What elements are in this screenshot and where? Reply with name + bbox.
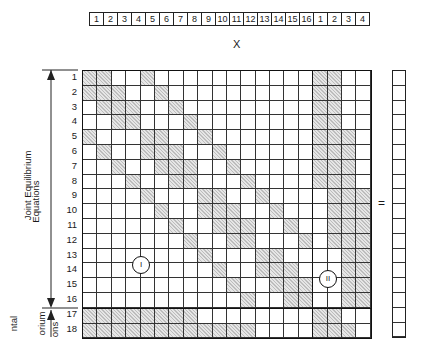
zero-cell (227, 130, 241, 145)
x-vector-cell: 16 (300, 13, 314, 25)
matrix-row (83, 204, 371, 219)
zero-cell (299, 130, 313, 145)
matrix-row (83, 175, 371, 190)
nonzero-cell (126, 101, 140, 116)
zero-cell (299, 263, 313, 278)
zero-cell (141, 175, 155, 190)
zero-cell (213, 101, 227, 116)
rhs-vector-cell (393, 189, 405, 204)
zero-cell (83, 160, 97, 175)
nonzero-cell (198, 204, 212, 219)
zero-cell (270, 293, 284, 308)
row-label: 12 (60, 233, 77, 248)
matrix-row (83, 293, 371, 308)
rhs-vector-cell (393, 234, 405, 249)
zero-cell (213, 278, 227, 293)
nonzero-cell (328, 130, 342, 145)
zero-cell (198, 219, 212, 234)
nonzero-cell (227, 204, 241, 219)
nonzero-cell (83, 71, 97, 86)
zero-cell (112, 204, 126, 219)
zero-cell (97, 234, 111, 249)
zero-cell (213, 71, 227, 86)
nonzero-cell (313, 175, 327, 190)
nonzero-cell (313, 160, 327, 175)
nonzero-cell (213, 189, 227, 204)
zero-cell (241, 249, 255, 264)
zero-cell (169, 130, 183, 145)
nonzero-cell (328, 204, 342, 219)
zero-cell (256, 130, 270, 145)
row-label: 15 (60, 277, 77, 292)
row-label: 11 (60, 218, 77, 233)
zero-cell (126, 130, 140, 145)
zero-cell (270, 175, 284, 190)
zero-cell (126, 204, 140, 219)
zero-cell (241, 115, 255, 130)
x-vector-label: X (233, 38, 240, 50)
nonzero-cell (97, 86, 111, 101)
row-label: 3 (60, 100, 77, 115)
zero-cell (256, 71, 270, 86)
zero-cell (155, 234, 169, 249)
nonzero-cell (356, 293, 370, 308)
rhs-vector-cell (393, 130, 405, 145)
rhs-vector-cell (393, 219, 405, 234)
rhs-vector-cell (393, 160, 405, 175)
zero-cell (227, 263, 241, 278)
zero-cell (169, 234, 183, 249)
nonzero-cell (328, 309, 342, 324)
rhs-vector-cell (393, 308, 405, 323)
nonzero-cell (299, 278, 313, 293)
zero-cell (299, 249, 313, 264)
nonzero-cell (227, 219, 241, 234)
zero-cell (227, 101, 241, 116)
zero-cell (83, 189, 97, 204)
zero-cell (141, 101, 155, 116)
zero-cell (241, 309, 255, 324)
zero-cell (284, 249, 298, 264)
zero-cell (126, 160, 140, 175)
zero-cell (270, 309, 284, 324)
matrix-row (83, 115, 371, 130)
x-vector-cell: 15 (286, 13, 300, 25)
lower-bracket-label-1: ntal (8, 309, 19, 339)
zero-cell (97, 263, 111, 278)
nonzero-cell (313, 309, 327, 324)
zero-cell (112, 145, 126, 160)
zero-cell (256, 86, 270, 101)
zero-cell (313, 249, 327, 264)
zero-cell (270, 219, 284, 234)
zero-cell (112, 234, 126, 249)
nonzero-cell (313, 86, 327, 101)
zero-cell (184, 293, 198, 308)
zero-cell (155, 293, 169, 308)
x-vector-cell: 2 (328, 13, 342, 25)
zero-cell (270, 189, 284, 204)
nonzero-cell (155, 204, 169, 219)
row-label: 6 (60, 144, 77, 159)
zero-cell (256, 115, 270, 130)
nonzero-cell (284, 278, 298, 293)
rhs-vector-cell (393, 145, 405, 160)
zero-cell (284, 115, 298, 130)
nonzero-cell (155, 130, 169, 145)
matrix-row (83, 86, 371, 101)
nonzero-cell (328, 115, 342, 130)
zero-cell (184, 86, 198, 101)
nonzero-cell (328, 145, 342, 160)
nonzero-cell (342, 160, 356, 175)
x-vector-cell: 11 (230, 13, 244, 25)
nonzero-cell (313, 71, 327, 86)
nonzero-cell (169, 175, 183, 190)
zero-cell (241, 263, 255, 278)
x-vector-cell: 3 (118, 13, 132, 25)
nonzero-cell (356, 278, 370, 293)
zero-cell (198, 145, 212, 160)
nonzero-cell (313, 101, 327, 116)
zero-cell (356, 309, 370, 324)
zero-cell (356, 324, 370, 339)
zero-cell (184, 130, 198, 145)
nonzero-cell (169, 309, 183, 324)
lower-bracket-label-3: ons (49, 320, 60, 340)
